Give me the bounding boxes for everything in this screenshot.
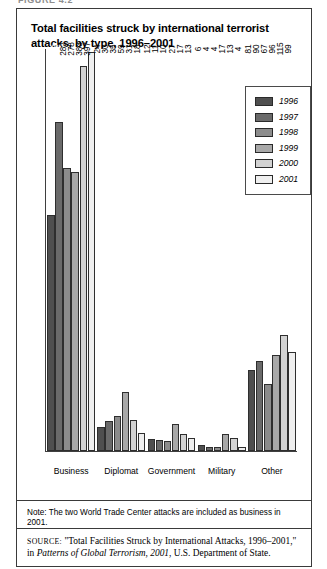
bar-group-government: 121110271713 [146,49,196,451]
x-tick-label-other: Other [247,466,297,476]
bar-rect [138,433,145,451]
bar-rect [188,438,195,451]
bar-diplomat-1997: 30 [105,49,112,451]
x-axis-tick-labels: BusinessDiplomatGovernmentMilitaryOther [46,466,297,476]
bar-value-label: 18 [133,45,141,54]
bar-rect [230,438,237,451]
bar-government-2000: 17 [180,49,187,451]
bar-military-2000: 13 [230,49,237,451]
source-prefix: SOURCE: [27,537,62,546]
bar-diplomat-1999: 59 [122,49,129,451]
bar-diplomat-1996: 24 [97,49,104,451]
bar-military-1996: 6 [198,49,205,451]
bar-rect [180,434,187,451]
bar-rect [214,447,221,451]
bar-rect [238,447,245,451]
bar-rect [264,384,271,451]
bar-rect [71,172,78,451]
bar-other-1998: 67 [264,49,271,451]
bar-other-1996: 81 [248,49,255,451]
bar-rect [288,352,295,452]
bar-rect [105,421,112,451]
bar-value-label: 397 [83,42,91,55]
bar-military-1998: 4 [214,49,221,451]
bar-business-1996: 235 [47,49,54,451]
bar-government-1996: 12 [148,49,155,451]
bar-groups: 2353272822783833972430355931181211102717… [46,49,297,451]
note-text: Note: The two World Trade Center attacks… [27,508,301,528]
source-publication: Patterns of Global Terrorism, 2001 [37,548,169,558]
bar-rect: 327 [55,122,62,451]
bar-value-label: 4 [234,47,242,51]
bar-rect [88,52,95,451]
bar-rect [280,335,287,451]
bar-group-military: 64417134 [197,49,247,451]
bar-diplomat-1998: 35 [114,49,121,451]
bar-rect [272,355,279,452]
bar-rect [80,66,87,451]
bar-business-2001: 397 [88,49,95,451]
bar-rect [148,439,155,451]
x-tick-label-military: Military [197,466,247,476]
bar-other-1997: 90 [256,49,263,451]
bar-other-2000: 115 [280,49,287,451]
bar-government-2001: 13 [188,49,195,451]
bar-group-business: 235327282278383397 [46,49,96,451]
x-tick-label-diplomat: Diplomat [96,466,146,476]
bar-diplomat-2000: 31 [130,49,137,451]
bar-business-2000: 383 [80,49,87,451]
bar-value-label: 13 [184,45,192,54]
bar-diplomat-2001: 18 [138,49,145,451]
bar-rect [122,392,129,451]
x-tick-label-business: Business [46,466,96,476]
bar-other-2001: 99 [288,49,295,451]
bar-military-2001: 4 [238,49,245,451]
bar-rect [206,447,213,451]
bar-value-label: 99 [284,45,292,54]
source-block: SOURCE: "Total Facilities Struck by Inte… [16,528,312,567]
bar-rect [248,370,255,451]
source-suffix: , U.S. Department of State. [169,548,271,558]
figure-label: FIGURE 4.2 [18,0,73,3]
bar-military-1999: 17 [222,49,229,451]
bar-rect [97,427,104,451]
bar-rect [172,424,179,451]
bar-government-1998: 10 [164,49,171,451]
bar-rect [156,440,163,451]
plot-area: 2353272822783833972430355931181211102717… [45,49,300,504]
bar-rect [130,420,137,451]
bar-other-1999: 96 [272,49,279,451]
x-tick-label-government: Government [146,466,196,476]
bar-rect: 235 [47,215,54,451]
bar-government-1997: 11 [156,49,163,451]
bar-military-1997: 4 [206,49,213,451]
bar-rect [198,445,205,451]
bar-business-1999: 278 [71,49,78,451]
bar-rect [114,416,121,451]
bar-rect [256,361,263,452]
bar-government-1999: 27 [172,49,179,451]
bar-group-other: 8190679611599 [247,49,297,451]
chart-panel: Total facilities struck by international… [16,8,312,500]
bar-business-1998: 282 [63,49,70,451]
bar-group-diplomat: 243035593118 [96,49,146,451]
bar-business-1997: 327 [55,49,62,451]
bar-rect [63,168,70,451]
bar-rect [164,441,171,451]
source-text: SOURCE: "Total Facilities Struck by Inte… [27,536,301,559]
bar-rect [222,434,229,451]
